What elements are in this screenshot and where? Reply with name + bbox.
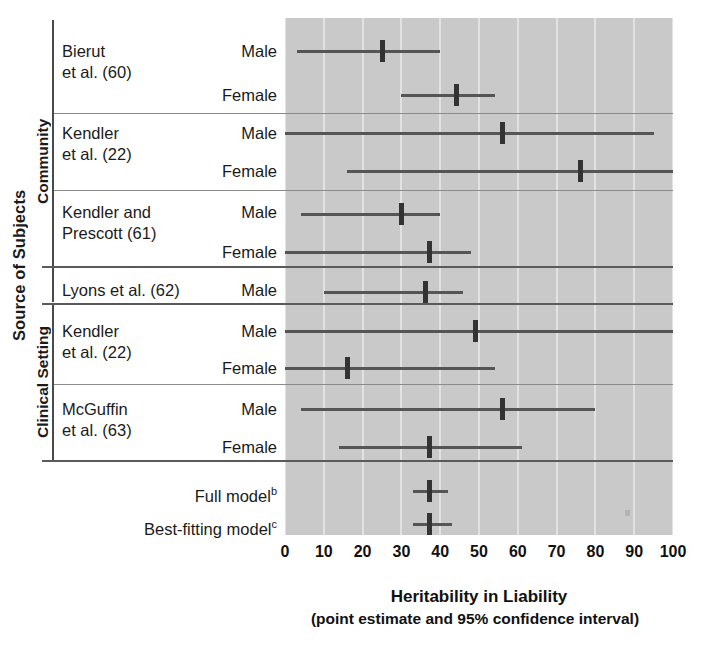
study-label-kendler22-clinical-line2: et al. (22) bbox=[62, 343, 132, 362]
study-label-kendler-prescott-line1: Kendler and bbox=[62, 203, 151, 222]
x-tick-label-60: 60 bbox=[498, 543, 538, 561]
sex-label-row-11: Female bbox=[185, 438, 277, 457]
confidence-interval-line bbox=[324, 291, 464, 294]
study-label-bierut-line1: Bierut bbox=[62, 42, 105, 61]
study-label-bierut-line2: et al. (60) bbox=[62, 63, 132, 82]
separator-4 bbox=[42, 303, 673, 305]
ci-row bbox=[285, 203, 673, 225]
confidence-interval-line bbox=[297, 50, 441, 53]
point-estimate-marker bbox=[500, 122, 505, 144]
ci-row bbox=[285, 241, 673, 263]
confidence-interval-line bbox=[285, 132, 654, 135]
point-estimate-marker bbox=[345, 357, 350, 379]
study-label-kendler-prescott-line2: Prescott (61) bbox=[62, 224, 156, 243]
separator-1 bbox=[54, 113, 673, 114]
sex-label-row-2: Female bbox=[185, 86, 277, 105]
noise-speck bbox=[625, 510, 630, 516]
x-axis-title: Heritability in Liability bbox=[285, 587, 673, 607]
summary-label-full-model-text: Full model bbox=[195, 487, 271, 505]
summary-label-best-fitting-model: Best-fitting modelc bbox=[0, 515, 277, 539]
ci-row bbox=[285, 84, 673, 106]
study-label-mcguffin-line1: McGuffin bbox=[62, 400, 128, 419]
study-label-kendler22-community-line2: et al. (22) bbox=[62, 145, 132, 164]
confidence-interval-line bbox=[301, 408, 596, 411]
group-label-community: Community bbox=[30, 20, 56, 302]
sex-label-row-10: Male bbox=[185, 400, 277, 419]
x-tick-label-40: 40 bbox=[420, 543, 460, 561]
confidence-interval-line bbox=[401, 94, 494, 97]
separator-5 bbox=[54, 384, 673, 385]
point-estimate-marker bbox=[454, 84, 459, 106]
separator-3 bbox=[42, 266, 673, 268]
group-label-clinical: Clinical Setting bbox=[30, 304, 56, 460]
ci-row bbox=[285, 122, 673, 144]
sex-label-row-7: Male bbox=[185, 281, 277, 300]
separator-6 bbox=[42, 460, 673, 462]
summary-label-best-fitting-model-text: Best-fitting model bbox=[144, 520, 271, 538]
study-label-mcguffin-line2: et al. (63) bbox=[62, 421, 132, 440]
point-estimate-marker bbox=[399, 203, 404, 225]
summary-label-full-model: Full modelb bbox=[0, 482, 277, 506]
forest-plot-figure: Source of Subjects Community Clinical Se… bbox=[0, 0, 712, 645]
plot-area bbox=[285, 18, 673, 535]
point-estimate-marker bbox=[427, 480, 432, 502]
point-estimate-marker bbox=[423, 281, 428, 303]
ci-row bbox=[285, 480, 673, 502]
summary-label-full-model-superscript: b bbox=[271, 485, 277, 497]
confidence-interval-line bbox=[285, 251, 471, 254]
x-tick-label-80: 80 bbox=[575, 543, 615, 561]
confidence-interval-line bbox=[285, 330, 673, 333]
point-estimate-marker bbox=[427, 436, 432, 458]
confidence-interval-line bbox=[413, 523, 452, 526]
ci-row bbox=[285, 398, 673, 420]
point-estimate-marker bbox=[427, 513, 432, 535]
ci-row bbox=[285, 40, 673, 62]
ci-row bbox=[285, 281, 673, 303]
ci-row bbox=[285, 160, 673, 182]
point-estimate-marker bbox=[427, 241, 432, 263]
x-tick-label-10: 10 bbox=[304, 543, 344, 561]
y-axis-title: Source of Subjects bbox=[6, 40, 32, 490]
sex-label-row-6: Female bbox=[185, 243, 277, 262]
study-label-kendler22-clinical-line1: Kendler bbox=[62, 322, 119, 341]
x-tick-label-100: 100 bbox=[653, 543, 693, 561]
study-label-lyons: Lyons et al. (62) bbox=[62, 281, 180, 300]
sex-label-row-8: Male bbox=[185, 322, 277, 341]
x-tick-label-20: 20 bbox=[343, 543, 383, 561]
point-estimate-marker bbox=[473, 320, 478, 342]
separator-2 bbox=[54, 190, 673, 191]
confidence-interval-line bbox=[285, 367, 495, 370]
x-tick-label-50: 50 bbox=[459, 543, 499, 561]
x-tick-label-70: 70 bbox=[537, 543, 577, 561]
x-tick-label-30: 30 bbox=[381, 543, 421, 561]
point-estimate-marker bbox=[380, 40, 385, 62]
x-tick-label-90: 90 bbox=[614, 543, 654, 561]
ci-row bbox=[285, 357, 673, 379]
confidence-interval-line bbox=[347, 170, 673, 173]
study-label-kendler22-community-line1: Kendler bbox=[62, 124, 119, 143]
ci-row bbox=[285, 320, 673, 342]
ci-row bbox=[285, 436, 673, 458]
sex-label-row-1: Male bbox=[185, 42, 277, 61]
x-axis-subtitle: (point estimate and 95% confidence inter… bbox=[240, 610, 710, 628]
sex-label-row-3: Male bbox=[185, 124, 277, 143]
sex-label-row-9: Female bbox=[185, 359, 277, 378]
point-estimate-marker bbox=[500, 398, 505, 420]
sex-label-row-4: Female bbox=[185, 162, 277, 181]
confidence-interval-line bbox=[301, 213, 441, 216]
summary-label-best-fitting-model-superscript: c bbox=[272, 518, 278, 530]
ci-row bbox=[285, 513, 673, 535]
x-tick-label-0: 0 bbox=[265, 543, 305, 561]
point-estimate-marker bbox=[578, 160, 583, 182]
sex-label-row-5: Male bbox=[185, 203, 277, 222]
